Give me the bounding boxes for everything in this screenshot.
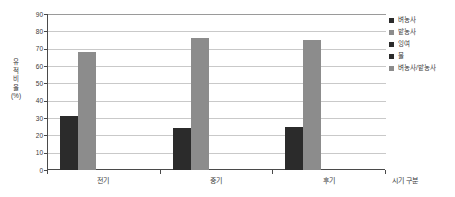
y-axis-tick-label: 70 [25, 45, 43, 52]
x-axis-category-label: 후기 [294, 176, 364, 185]
chart-legend: 벼농사밭농사잉여물벼농사/밭농사 [388, 14, 454, 74]
bar[interactable] [303, 40, 321, 170]
legend-swatch-icon [388, 53, 395, 60]
y-axis-title: 유 적 비 율 (%) [9, 58, 23, 101]
x-axis-tick-mark [47, 170, 48, 174]
legend-swatch-icon [388, 17, 395, 24]
y-axis-tick-label: 80 [25, 28, 43, 35]
legend-label: 잉여 [398, 40, 410, 48]
legend-label: 벼농사 [398, 16, 416, 24]
bar[interactable] [173, 128, 191, 170]
y-axis-tick-label: 60 [25, 63, 43, 70]
y-axis-tick-label: 10 [25, 149, 43, 156]
y-axis-tick-label: 50 [25, 80, 43, 87]
legend-swatch-icon [388, 29, 395, 36]
x-axis-title: 시기 구분 [392, 176, 418, 185]
legend-swatch-icon [388, 41, 395, 48]
legend-item[interactable]: 물 [388, 50, 454, 62]
y-axis-title-char: (%) [9, 92, 23, 101]
legend-item[interactable]: 잉여 [388, 38, 454, 50]
legend-item[interactable]: 밭농사 [388, 26, 454, 38]
x-axis-category-label: 전기 [68, 176, 138, 185]
bar[interactable] [78, 52, 96, 170]
legend-label: 밭농사 [398, 28, 416, 36]
y-axis-tick-label: 20 [25, 132, 43, 139]
y-axis-title-char: 적 [9, 67, 23, 76]
y-axis-title-char: 율 [9, 84, 23, 93]
y-axis-tick-label: 0 [25, 167, 43, 174]
legend-item[interactable]: 벼농사/밭농사 [388, 62, 454, 74]
y-axis-tick-label: 30 [25, 115, 43, 122]
bar-group [60, 14, 96, 170]
y-axis-title-char: 유 [9, 58, 23, 67]
legend-item[interactable]: 벼농사 [388, 14, 454, 26]
bar[interactable] [285, 127, 303, 170]
y-axis-tick-label: 40 [25, 97, 43, 104]
legend-label: 벼농사/밭농사 [398, 64, 436, 72]
legend-label: 물 [398, 52, 404, 60]
x-axis-tick-mark [385, 170, 386, 174]
bar[interactable] [60, 116, 78, 170]
bar-groups [47, 14, 385, 170]
bar-chart: 유 적 비 율 (%) 9080706050403020100 전기중기후기 시… [0, 0, 455, 197]
bar-group [285, 14, 321, 170]
bar-group [173, 14, 209, 170]
bar[interactable] [191, 38, 209, 170]
legend-swatch-icon [388, 65, 395, 72]
x-axis-tick-mark [160, 170, 161, 174]
y-axis-title-char: 비 [9, 75, 23, 84]
y-axis-tick-label: 90 [25, 11, 43, 18]
x-axis-tick-mark [272, 170, 273, 174]
x-axis-category-label: 중기 [181, 176, 251, 185]
